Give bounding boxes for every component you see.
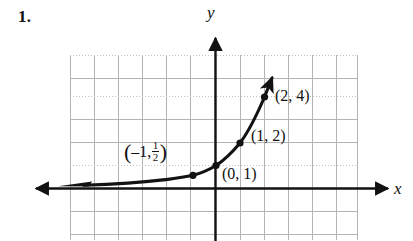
figure-container: 1.	[0, 0, 413, 241]
fraction-denominator: 2	[152, 152, 160, 163]
label-x-value: –1,	[131, 144, 151, 160]
graph-plot	[0, 0, 413, 241]
label-close-paren: )	[160, 143, 167, 160]
grid-lines	[70, 55, 358, 240]
curve-left-arrowhead	[58, 181, 92, 186]
point-label-neg1-half: ( –1, 1 2 )	[124, 140, 167, 163]
point-label-0-1: (0, 1)	[222, 166, 257, 182]
point-label-2-4: (2, 4)	[275, 88, 310, 104]
point-1-2	[236, 139, 243, 146]
label-open-paren: (	[124, 143, 131, 160]
point-0-1	[212, 162, 219, 169]
point-2-4	[261, 93, 268, 100]
fraction-one-half: 1 2	[152, 140, 160, 163]
y-axis-label: y	[207, 4, 215, 21]
point-neg1-half	[189, 172, 196, 179]
point-label-1-2: (1, 2)	[251, 128, 286, 144]
x-axis-label: x	[394, 180, 402, 197]
